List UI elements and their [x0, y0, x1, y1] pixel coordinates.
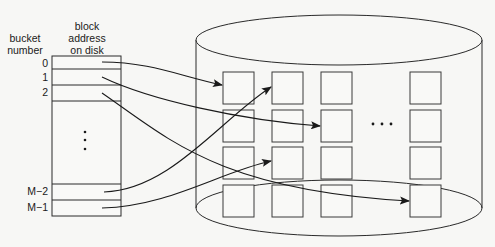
horizontal-ellipsis [372, 123, 393, 126]
disk-blocks [223, 72, 441, 217]
static-hashing-diagram: bucket number block address on disk 0 1 … [0, 0, 495, 247]
diagram-graphics [0, 0, 495, 247]
disk-top-ellipse [196, 15, 482, 65]
